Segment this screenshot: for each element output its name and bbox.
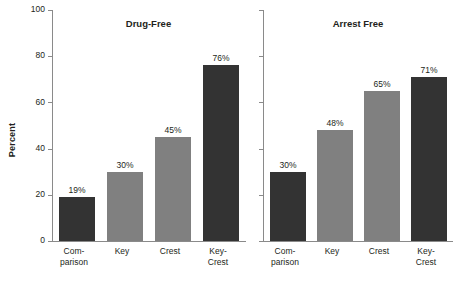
y-tick-label-20: 20 bbox=[19, 190, 45, 199]
y-tick-80-right bbox=[259, 56, 263, 57]
y-tick-label-100: 100 bbox=[19, 5, 45, 14]
y-tick-100-right bbox=[259, 10, 263, 11]
y-tick-label-60: 60 bbox=[19, 98, 45, 107]
bar-value-label: 76% bbox=[203, 53, 239, 63]
y-tick-80-left bbox=[48, 56, 52, 57]
bar-key[interactable] bbox=[107, 172, 143, 241]
bar-slot[interactable]: 48% bbox=[317, 10, 353, 241]
bar-value-label: 19% bbox=[59, 185, 95, 195]
y-tick-0-left bbox=[48, 241, 52, 242]
y-tick-20-right bbox=[259, 195, 263, 196]
bar-value-label: 71% bbox=[411, 65, 447, 75]
x-category-label-key-crest: Key- Crest bbox=[191, 246, 245, 268]
y-tick-60-right bbox=[259, 102, 263, 103]
x-category-label-comparison: Com- parison bbox=[258, 246, 312, 268]
x-category-label-crest: Crest bbox=[352, 246, 406, 257]
bar-slot[interactable]: 65% bbox=[364, 10, 400, 241]
bar-slot[interactable]: 76% bbox=[203, 10, 239, 241]
bar-key-crest[interactable] bbox=[411, 77, 447, 241]
x-category-label-key-crest: Key- Crest bbox=[399, 246, 453, 268]
plot-area-drug-free: 19% 30% 45% 76% bbox=[53, 10, 246, 241]
y-tick-label-80: 80 bbox=[19, 51, 45, 60]
bar-slot[interactable]: 71% bbox=[411, 10, 447, 241]
y-tick-label-0: 0 bbox=[19, 236, 45, 245]
x-category-label-key: Key bbox=[305, 246, 359, 257]
bar-chart-figure: Percent Drug-Free 0 20 40 60 80 100 19% … bbox=[0, 0, 453, 284]
y-tick-60-left bbox=[48, 102, 52, 103]
bar-crest[interactable] bbox=[155, 137, 191, 241]
y-tick-label-40: 40 bbox=[19, 144, 45, 153]
bar-value-label: 30% bbox=[107, 160, 143, 170]
bar-crest[interactable] bbox=[364, 91, 400, 241]
bar-value-label: 30% bbox=[270, 160, 306, 170]
bar-key[interactable] bbox=[317, 130, 353, 241]
bar-slot[interactable]: 30% bbox=[270, 10, 306, 241]
y-tick-0-right bbox=[259, 241, 263, 242]
bar-comparison[interactable] bbox=[59, 197, 95, 241]
bar-comparison[interactable] bbox=[270, 172, 306, 241]
bar-value-label: 45% bbox=[155, 125, 191, 135]
panel-arrest-free: Arrest Free 30% 48% 65% 71% bbox=[253, 0, 453, 284]
bar-key-crest[interactable] bbox=[203, 65, 239, 241]
y-tick-40-left bbox=[48, 149, 52, 150]
bar-value-label: 48% bbox=[317, 118, 353, 128]
bar-slot[interactable]: 19% bbox=[59, 10, 95, 241]
y-tick-100-left bbox=[48, 10, 52, 11]
y-tick-20-left bbox=[48, 195, 52, 196]
x-axis-line-left bbox=[52, 241, 246, 242]
x-axis-line-right bbox=[263, 241, 453, 242]
x-category-label-key: Key bbox=[95, 246, 149, 257]
bar-slot[interactable]: 30% bbox=[107, 10, 143, 241]
panel-drug-free: Drug-Free 0 20 40 60 80 100 19% 30% bbox=[0, 0, 253, 284]
y-tick-40-right bbox=[259, 149, 263, 150]
bar-slot[interactable]: 45% bbox=[155, 10, 191, 241]
x-category-label-crest: Crest bbox=[143, 246, 197, 257]
bar-value-label: 65% bbox=[364, 79, 400, 89]
x-category-label-comparison: Com- parison bbox=[47, 246, 101, 268]
plot-area-arrest-free: 30% 48% 65% 71% bbox=[264, 10, 453, 241]
